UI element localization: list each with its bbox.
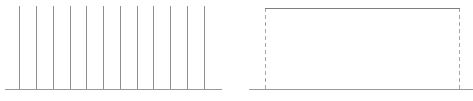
impulse-series — [20, 6, 205, 89]
signal-figure — [0, 0, 473, 101]
impulse-train-plot — [0, 0, 236, 101]
rectangular-pulse-panel — [236, 0, 473, 101]
rectangular-pulse-plot — [236, 0, 473, 101]
impulse-train-panel — [0, 0, 236, 101]
